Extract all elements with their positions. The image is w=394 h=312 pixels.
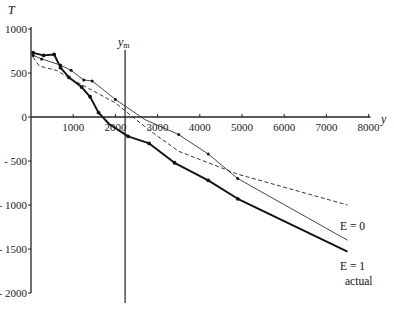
legend-label-actual: actual: [345, 275, 372, 287]
data-point-marker: [177, 133, 180, 136]
data-point-marker: [173, 161, 177, 165]
data-point-marker: [91, 79, 94, 82]
chart-canvas: 10005000- 500- 1000- 1500- 2000100020003…: [0, 0, 394, 312]
ym-label-sub: m: [123, 41, 130, 50]
data-point-marker: [42, 54, 46, 58]
data-point-marker: [32, 54, 35, 57]
x-tick-label: 6000: [273, 121, 296, 133]
data-point-marker: [126, 134, 130, 138]
legend-label-e0: E = 0: [340, 220, 365, 232]
data-point-marker: [70, 69, 73, 72]
x-tick-label: 1000: [62, 121, 85, 133]
data-point-marker: [59, 64, 62, 67]
series-line-actual: [33, 53, 347, 252]
y-tick-label: 500: [11, 67, 28, 79]
x-tick-label: 7000: [315, 121, 338, 133]
x-tick-label: 5000: [231, 121, 254, 133]
y-tick-label: - 500: [4, 155, 27, 167]
data-point-marker: [97, 111, 101, 115]
data-point-marker: [114, 98, 117, 101]
data-point-marker: [52, 53, 56, 57]
y-tick-label: 0: [22, 111, 28, 123]
series-line-e-1: [33, 55, 347, 240]
y-tick-label: - 2000: [0, 287, 27, 299]
data-point-marker: [147, 142, 151, 146]
data-point-marker: [40, 57, 43, 60]
y-tick-label: 1000: [5, 23, 28, 35]
x-axis-title: y: [380, 112, 387, 126]
y-tick-label: - 1500: [0, 243, 27, 255]
legend-label-e1: E = 1: [340, 260, 365, 272]
series-group: [31, 51, 347, 252]
data-point-marker: [207, 152, 210, 155]
y-tick-label: - 1000: [0, 199, 27, 211]
x-tick-label: 4000: [189, 121, 212, 133]
data-point-marker: [206, 178, 210, 182]
ym-label: ym: [117, 35, 130, 50]
data-point-marker: [236, 177, 239, 180]
data-point-marker: [236, 197, 240, 201]
axes: 10005000- 500- 1000- 1500- 2000100020003…: [0, 23, 380, 303]
x-tick-label: 8000: [358, 121, 381, 133]
y-axis-title: T: [8, 3, 16, 17]
data-point-marker: [82, 79, 85, 82]
data-point-marker: [88, 95, 92, 99]
